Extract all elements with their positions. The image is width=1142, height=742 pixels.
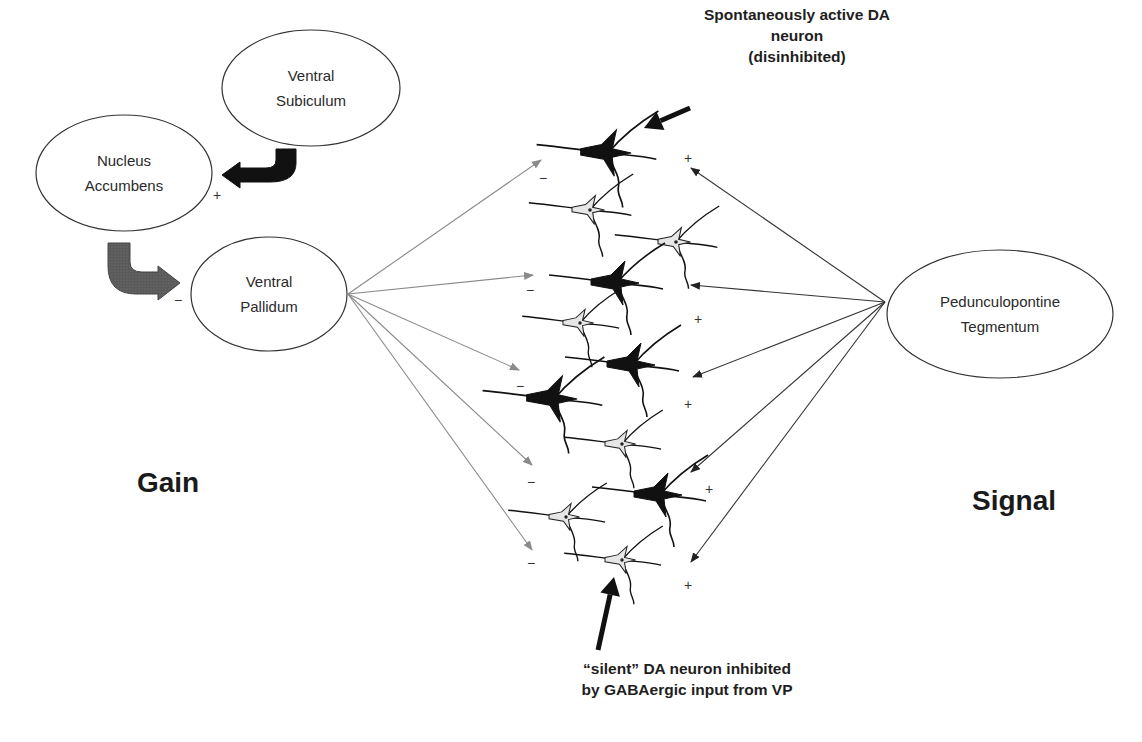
inhibitory-sign: −: [516, 378, 524, 394]
vp-inhibitory-projections: [348, 160, 541, 550]
ppt-projection-arrow: [691, 168, 885, 302]
label-line: Pallidum: [240, 294, 298, 319]
vp-projection-arrow: [348, 294, 519, 370]
excitatory-sign: +: [705, 481, 713, 497]
silent-pointer-shaft: [598, 595, 610, 650]
silent-da-neuron-icon: [564, 410, 663, 488]
diagram-canvas: [0, 0, 1142, 742]
silent-da-neuron-icon: [529, 174, 633, 257]
excitatory-sign: +: [684, 396, 692, 412]
vp-projection-arrow: [348, 275, 533, 294]
inhibitory-sign: −: [527, 474, 535, 490]
label-line: Nucleus: [85, 148, 163, 173]
signal-label: Signal: [972, 485, 1056, 517]
nucleus-accumbens-label: NucleusAccumbens: [85, 148, 163, 198]
active-da-neuron-icon: [537, 111, 659, 208]
excitatory-sign: +: [684, 577, 692, 593]
vp-projection-arrow: [348, 294, 532, 465]
callout-line: neuron: [704, 25, 890, 46]
ventral-pallidum-label: VentralPallidum: [240, 269, 298, 319]
label-line: Subiculum: [276, 88, 346, 113]
active-pointer-shaft: [661, 108, 690, 121]
inhibitory-sign: −: [527, 555, 535, 571]
silent-da-neuron-icon: [615, 206, 719, 289]
ppt-projection-arrow: [691, 302, 885, 562]
silent-pointer-head-icon: [600, 577, 620, 597]
nac-to-vp-sign: −: [174, 292, 182, 308]
ppt-projection-arrow: [691, 285, 885, 302]
callout-line: Spontaneously active DA: [704, 4, 890, 25]
silent-da-neuron-icon: [522, 289, 621, 367]
label-line: Ventral: [276, 63, 346, 88]
callout-line: (disinhibited): [704, 46, 890, 67]
label-line: Tegmentum: [940, 314, 1060, 339]
label-line: Accumbens: [85, 173, 163, 198]
gain-label: Gain: [137, 467, 199, 499]
silent-da-neuron-icon: [508, 483, 607, 561]
callout-line: by GABAergic input from VP: [582, 679, 793, 700]
active-neuron-callout: Spontaneously active DA neuron (disinhib…: [704, 4, 890, 67]
inhibitory-sign: −: [539, 170, 547, 186]
active-da-neuron-icon: [592, 455, 708, 547]
label-line: Ventral: [240, 269, 298, 294]
vs-to-nac-arrow: [222, 149, 296, 188]
nac-to-vp-arrow: [108, 243, 180, 300]
pedunculopontine-tegmentum-label: PedunculopontineTegmentum: [940, 289, 1060, 339]
vs-to-nac-sign: +: [213, 187, 221, 203]
callout-line: “silent” DA neuron inhibited: [582, 658, 793, 679]
vp-projection-arrow: [348, 294, 532, 550]
ppt-projection-arrow: [693, 302, 885, 377]
label-line: Pedunculopontine: [940, 289, 1060, 314]
ppt-projection-arrow: [691, 302, 885, 472]
ppt-excitatory-projections: [691, 168, 885, 562]
silent-neuron-callout: “silent” DA neuron inhibited by GABAergi…: [582, 658, 793, 700]
excitatory-sign: +: [694, 311, 702, 327]
excitatory-sign: +: [684, 150, 692, 166]
ventral-subiculum-label: VentralSubiculum: [276, 63, 346, 113]
vp-projection-arrow: [348, 160, 541, 294]
inhibitory-sign: −: [526, 282, 534, 298]
